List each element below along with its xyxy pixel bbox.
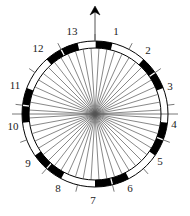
ring-band-dark — [149, 138, 163, 155]
radial-spoke — [95, 114, 135, 166]
sector-label-5: 5 — [157, 156, 163, 167]
sector-label-2: 2 — [145, 45, 151, 56]
radial-spoke — [55, 62, 95, 114]
radial-spoke — [95, 114, 155, 141]
sector-label-7: 7 — [90, 195, 96, 206]
sector-tick — [58, 43, 61, 49]
sector-label-13: 13 — [67, 26, 78, 37]
sector-tick — [16, 104, 23, 105]
ring-band-dark — [150, 73, 164, 90]
radial-spoke — [95, 114, 147, 154]
radial-spoke — [95, 74, 147, 114]
sector-tick — [129, 43, 132, 49]
radial-spoke — [35, 87, 95, 114]
radial-spoke — [68, 114, 95, 174]
sector-label-9: 9 — [25, 158, 31, 169]
radial-spoke — [35, 114, 95, 141]
radial-spoke — [95, 114, 122, 174]
rose-diagram-figure: 12345678910111213 — [0, 0, 190, 216]
sector-label-8: 8 — [55, 183, 61, 194]
radial-spoke — [43, 114, 95, 154]
sector-label-12: 12 — [33, 43, 44, 54]
sector-tick — [112, 185, 114, 192]
sector-tick — [42, 169, 47, 174]
radial-spoke — [95, 54, 122, 114]
sector-tick — [20, 140, 27, 142]
sector-label-1: 1 — [113, 26, 119, 37]
radial-spoke — [95, 62, 135, 114]
north-arrow — [90, 6, 100, 41]
sector-tick — [155, 69, 161, 73]
sector-label-3: 3 — [167, 81, 173, 92]
sector-tick — [163, 140, 170, 142]
radial-spoke — [68, 54, 95, 114]
sector-label-4: 4 — [171, 119, 177, 130]
ring-band-dark — [22, 106, 29, 123]
sector-label-6: 6 — [127, 183, 133, 194]
sector-tick — [76, 185, 78, 192]
sector-tick — [29, 69, 35, 73]
sector-tick — [143, 169, 148, 174]
sector-label-11: 11 — [10, 80, 21, 91]
rose-diagram-canvas — [0, 0, 190, 216]
sector-label-10: 10 — [8, 121, 19, 132]
radial-spoke — [55, 114, 95, 166]
sector-tick — [167, 104, 174, 105]
radial-spoke — [43, 74, 95, 114]
radial-spoke — [95, 87, 155, 114]
